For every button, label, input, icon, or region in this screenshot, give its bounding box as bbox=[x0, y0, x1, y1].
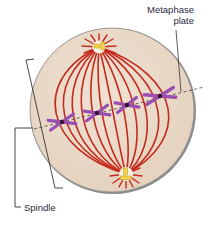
metaphase-plate-label: Metaphase plate bbox=[147, 4, 194, 26]
spindle-label: Spindle bbox=[24, 202, 56, 213]
metaphase-plate-label-line1: Metaphase bbox=[147, 4, 194, 15]
metaphase-cell-diagram bbox=[0, 0, 216, 230]
metaphase-plate-label-line2: plate bbox=[147, 15, 194, 26]
top-centrosome-icon bbox=[93, 41, 106, 54]
bottom-centrosome-icon bbox=[119, 167, 133, 181]
